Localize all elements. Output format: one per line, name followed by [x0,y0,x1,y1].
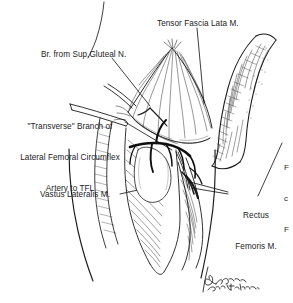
label-cropped-right-edge-line-3: F [284,225,293,235]
anatomical-figure: Tensor Fascia Lata M. Br. from Sup.Glute… [0,0,293,303]
label-tensor-fascia-lata: Tensor Fascia Lata M. [157,19,239,29]
label-cropped-right-edge: F c F [284,143,293,255]
label-superior-gluteal-nerve: Br. from Sup.Gluteal N. [41,50,126,60]
label-transverse-branch-line-2: Lateral Femoral Circumflex [8,153,132,163]
label-cropped-right-edge-line-1: F [284,163,293,173]
label-vastus-lateralis: Vastus Lateralis M. [40,190,110,200]
label-rectus-femoris-line-1: Rectus [230,211,282,221]
signature-icon [200,266,262,294]
label-rectus-femoris: Rectus Femoris M. [230,190,282,273]
label-transverse-branch-line-1: "Transverse" Branch of [8,122,132,132]
label-cropped-right-edge-line-2: c [284,194,293,204]
label-rectus-femoris-line-2: Femoris M. [230,242,282,252]
